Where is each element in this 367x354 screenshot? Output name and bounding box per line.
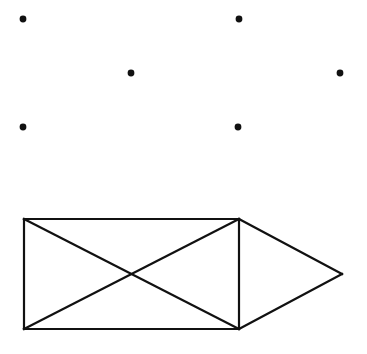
figure-svg (0, 0, 367, 354)
dot-4 (337, 70, 344, 77)
dot-3 (128, 70, 135, 77)
dot-2 (236, 16, 243, 23)
dot-1 (20, 16, 27, 23)
dot-5 (20, 124, 27, 131)
drawing-canvas (0, 0, 367, 354)
dot-6 (235, 124, 242, 131)
